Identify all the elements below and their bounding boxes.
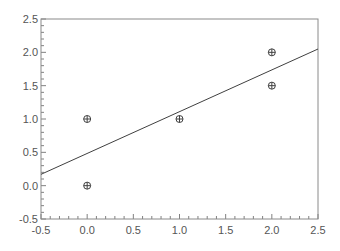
x-tick-label: 0.0: [80, 224, 95, 236]
data-series: [41, 49, 318, 189]
circle-plus-marker-icon: [268, 82, 275, 89]
y-tick-label: 0.5: [23, 146, 38, 158]
circle-plus-marker-icon: [176, 116, 183, 123]
y-tick-label: -0.5: [19, 213, 38, 225]
circle-plus-marker-icon: [268, 49, 275, 56]
y-tick-label: 1.5: [23, 80, 38, 92]
y-tick-label: 1.0: [23, 113, 38, 125]
y-tick-label: 0.0: [23, 180, 38, 192]
circle-plus-marker-icon: [84, 116, 91, 123]
y-axis-tick-labels: -0.50.00.51.01.52.02.5: [19, 13, 38, 225]
x-tick-label: 1.5: [218, 224, 233, 236]
x-tick-label: -0.5: [32, 224, 51, 236]
x-axis-tick-labels: -0.50.00.51.01.52.02.5: [32, 224, 326, 236]
x-tick-label: 0.5: [126, 224, 141, 236]
scatter-chart: -0.50.00.51.01.52.02.5 -0.50.00.51.01.52…: [0, 0, 340, 251]
y-tick-label: 2.5: [23, 13, 38, 25]
x-tick-label: 1.0: [172, 224, 187, 236]
fit-line: [41, 49, 318, 174]
y-tick-label: 2.0: [23, 46, 38, 58]
x-tick-label: 2.5: [310, 224, 325, 236]
x-tick-label: 2.0: [264, 224, 279, 236]
circle-plus-marker-icon: [84, 182, 91, 189]
